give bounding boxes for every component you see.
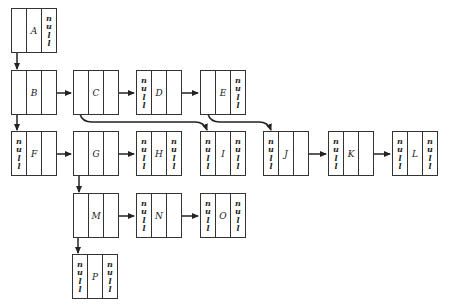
pointer-cell-right [167,71,181,114]
edge-C-I [80,114,207,130]
null-pointer: n u l l [141,76,147,110]
node-H: n u l lHn u l l [136,131,182,176]
null-pointer: n u l l [397,137,403,171]
node-label-cell: H [152,132,167,175]
node-A: An u l l [11,8,57,53]
pointer-cell-right: n u l l [167,132,181,175]
node-label: P [92,272,98,282]
pointer-cell-left [201,71,216,114]
pointer-cell-left: n u l l [201,194,216,237]
pointer-cell-left: n u l l [264,132,279,175]
node-label: K [348,149,355,159]
node-label: L [412,149,418,159]
node-label-cell: I [216,132,231,175]
pointer-cell-right [104,194,118,237]
node-label-cell: K [344,132,359,175]
node-label-cell: N [152,194,167,237]
node-I: n u l lIn u l l [200,131,246,176]
node-P: n u l lPn u l l [72,254,118,299]
null-pointer: n u l l [205,199,211,233]
null-pointer: n u l l [333,137,339,171]
pointer-cell-right [294,132,308,175]
node-G: G [73,131,119,176]
pointer-cell-right: n u l l [423,132,437,175]
node-label: I [221,149,225,159]
pointer-cell-right: n u l l [231,194,245,237]
pointer-cell-left [74,132,89,175]
linked-tree-diagram: An u l lBCn u l lDEn u l ln u l lFGn u l… [0,0,451,308]
null-pointer: n u l l [268,137,274,171]
edge-E-J [208,114,271,130]
node-label-cell: O [216,194,231,237]
node-K: n u l lK [328,131,374,176]
pointer-cell-left [74,194,89,237]
node-L: n u l lLn u l l [392,131,438,176]
node-label-cell: B [27,71,42,114]
node-label: D [155,88,162,98]
node-label-cell: L [408,132,423,175]
pointer-cell-left [12,9,27,52]
node-label: O [219,211,226,221]
pointer-cell-right: n u l l [103,255,117,298]
pointer-cell-right: n u l l [231,132,245,175]
node-label-cell: P [88,255,103,298]
pointer-cell-left: n u l l [12,132,27,175]
node-B: B [11,70,57,115]
pointer-cell-right: n u l l [42,9,56,52]
pointer-cell-left: n u l l [73,255,88,298]
pointer-cell-left [74,71,89,114]
null-pointer: n u l l [77,260,83,294]
node-label: H [155,149,163,159]
node-label: A [31,26,38,36]
pointer-cell-right [42,132,56,175]
null-pointer: n u l l [235,137,241,171]
pointer-cell-left: n u l l [137,71,152,114]
pointer-cell-left: n u l l [137,194,152,237]
pointer-cell-right [167,194,181,237]
node-label-cell: J [279,132,294,175]
pointer-cell-left: n u l l [201,132,216,175]
null-pointer: n u l l [205,137,211,171]
node-label-cell: D [152,71,167,114]
node-label: E [220,88,227,98]
node-F: n u l lF [11,131,57,176]
pointer-cell-right [42,71,56,114]
node-label-cell: F [27,132,42,175]
node-M: M [73,193,119,238]
node-label-cell: E [216,71,231,114]
null-pointer: n u l l [46,14,52,48]
pointer-cell-right: n u l l [231,71,245,114]
node-E: En u l l [200,70,246,115]
node-label-cell: G [89,132,104,175]
node-label: M [91,211,100,221]
node-C: C [73,70,119,115]
node-label: C [93,88,100,98]
null-pointer: n u l l [235,76,241,110]
null-pointer: n u l l [141,137,147,171]
pointer-cell-right [104,71,118,114]
node-J: n u l lJ [263,131,309,176]
null-pointer: n u l l [141,199,147,233]
node-label: N [155,211,163,221]
pointer-cell-left: n u l l [329,132,344,175]
node-N: n u l lN [136,193,182,238]
node-label-cell: C [89,71,104,114]
node-label: B [31,88,38,98]
node-label: F [31,149,37,159]
null-pointer: n u l l [427,137,433,171]
pointer-cell-left: n u l l [137,132,152,175]
node-O: n u l lOn u l l [200,193,246,238]
pointer-cell-right [104,132,118,175]
pointer-cell-right [359,132,373,175]
node-label-cell: A [27,9,42,52]
null-pointer: n u l l [107,260,113,294]
pointer-cell-left [12,71,27,114]
node-D: n u l lD [136,70,182,115]
pointer-cell-left: n u l l [393,132,408,175]
null-pointer: n u l l [16,137,22,171]
null-pointer: n u l l [235,199,241,233]
node-label: G [92,149,99,159]
node-label: J [284,149,288,159]
node-label-cell: M [89,194,104,237]
null-pointer: n u l l [171,137,177,171]
